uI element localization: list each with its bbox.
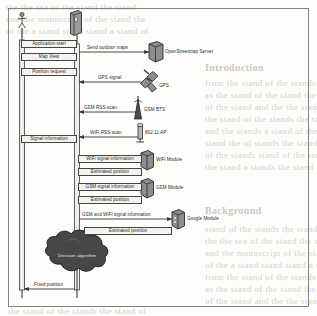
- wifi-access-point-icon: [137, 123, 145, 142]
- node-label-google-module: Google Module: [187, 217, 219, 222]
- message-label-map-view: Map View: [21, 53, 77, 62]
- server-node-icon: [149, 42, 163, 63]
- message-label-wifi-estimated-position: Estimated position: [78, 168, 142, 177]
- message-label-gps-signal: GPS signal: [98, 76, 121, 81]
- node-label-gps: GPS: [159, 84, 169, 89]
- message-label-gsm-rss-scan: GSM RSS scan: [84, 106, 117, 111]
- activation-bar-user: [19, 40, 24, 290]
- node-label-wifi-module: WiFi Module: [156, 158, 182, 163]
- message-label-wifi-signal-information: WiFi signal information: [78, 155, 142, 164]
- mobile-phone-icon: [71, 11, 82, 36]
- stick-figure-actor-icon: [18, 12, 27, 28]
- message-label-gsm-signal-information: GSM signal information: [78, 183, 142, 192]
- component-node-icon: [172, 210, 185, 230]
- cloud-shape-icon: [46, 230, 108, 271]
- message-label-wifi-rss-scan: WiFi RSS scan: [90, 131, 122, 136]
- antenna-tower-icon: [134, 96, 142, 119]
- cloud-label-decision-algorithm: Decision algorithm: [58, 253, 96, 258]
- message-label-google-estimated-position: Estimated position: [84, 227, 172, 236]
- message-label-send-outdoor-maps: Send outdoor maps: [87, 46, 128, 51]
- sequence-diagram-canvas: the the sea of the stand the stand and t…: [0, 0, 317, 316]
- message-label-gsm-wifi-signal-information: GSM and WiFi signal information: [82, 213, 151, 218]
- node-label-gsm-bts: GSM BTS: [144, 108, 165, 113]
- message-label-gsm-estimated-position: Estimated position: [78, 196, 142, 205]
- component-node-icon: [141, 179, 154, 199]
- message-label-application-start: Application start: [21, 40, 77, 49]
- node-label-802-11-ap: 802.11 AP: [145, 131, 166, 136]
- node-label-openstreetmap-server: OpenStreetmap Server: [165, 50, 213, 55]
- message-label-position-request: Position request: [21, 68, 77, 77]
- message-label-signal-information: Signal information: [21, 135, 77, 144]
- satellite-icon: [141, 70, 159, 92]
- component-node-icon: [141, 151, 154, 171]
- node-label-gsm-module: GSM Module: [156, 186, 183, 191]
- message-label-fixed-position: Fixed position: [34, 283, 63, 288]
